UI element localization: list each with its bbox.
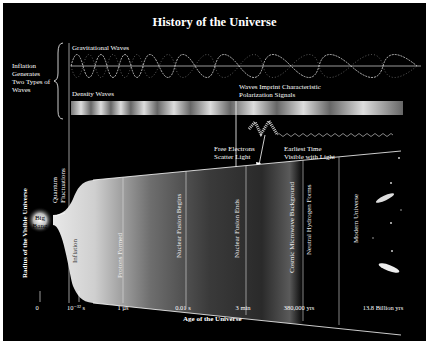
inflation-note: Inflation Generates Two Types of Waves <box>12 62 50 94</box>
x-tick: 13.8 Billion yrs <box>363 304 404 311</box>
inflation-note-line: Inflation <box>12 62 50 70</box>
big-bang-line: Bang <box>31 222 49 230</box>
x-tick: 10⁻³² s <box>67 304 85 312</box>
epoch-neutral-hydrogen: Neutral Hydrogen Forms <box>305 185 313 255</box>
epoch-cmb: Cosmic Microwave Background <box>288 182 296 273</box>
epoch-protons-formed: Protons Formed <box>116 233 124 278</box>
x-tick: 1 µs <box>117 304 128 311</box>
epoch-inflation: Inflation <box>71 239 79 263</box>
x-tick: 0.01 s <box>175 304 191 311</box>
density-waves-label: Density Waves <box>72 90 114 98</box>
inflation-note-line: Two Types of <box>12 78 50 86</box>
x-tick: 0 <box>35 304 38 311</box>
quantum-line: Quantum <box>51 168 59 203</box>
x-axis-label: Age of the Universe <box>183 315 242 323</box>
inflation-note-line: Generates <box>12 70 50 78</box>
big-bang-line: Big <box>31 214 49 222</box>
quantum-fluctuations-label: Quantum Fluctuations <box>51 168 67 203</box>
big-bang-label: Big Bang <box>31 214 49 230</box>
epoch-modern-universe: Modern Universe <box>352 194 360 243</box>
x-tick: 3 min <box>236 304 251 311</box>
epoch-fusion-ends: Nuclear Fusion Ends <box>233 199 241 258</box>
diagram-title: History of the Universe <box>3 15 426 30</box>
inflation-note-line: Waves <box>12 86 50 94</box>
diagram-panel: History of the Universe Inflation Genera… <box>3 3 426 341</box>
gravitational-waves-label: Gravitational Waves <box>72 44 129 52</box>
x-tick: 380,000 yrs <box>284 304 315 311</box>
y-axis-label: Radius of the Visible Universe <box>21 188 29 278</box>
quantum-line: Fluctuations <box>59 168 67 203</box>
epoch-fusion-begins: Nuclear Fusion Begins <box>175 194 183 258</box>
